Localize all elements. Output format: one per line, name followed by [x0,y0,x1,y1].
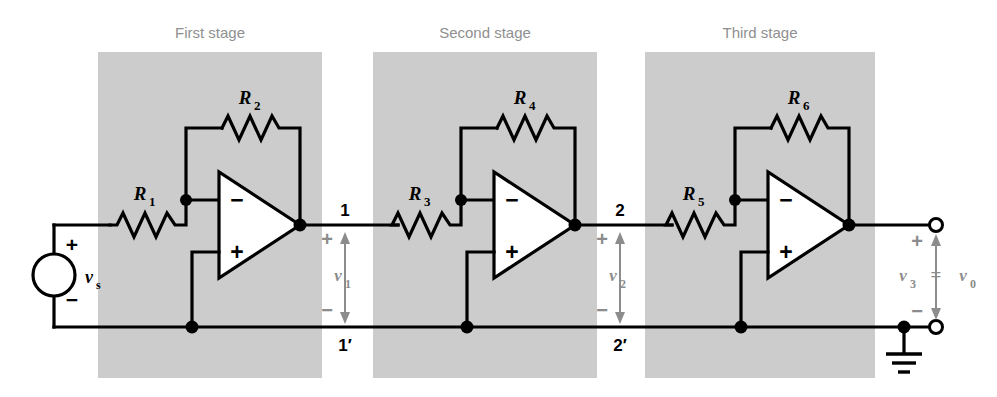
v3-arrow-head-down [931,308,941,320]
junction-dot-output-3 [843,219,856,232]
resistor-r3-subscript: 3 [424,194,431,209]
v3-label: v [899,266,907,285]
resistor-r4-label: R [513,87,527,108]
resistor-r1-label: R [133,183,147,204]
junction-dot-inverting-1 [180,194,192,206]
resistor-r3-label: R [408,183,422,204]
resistor-r4-subscript: 4 [529,98,536,113]
v1-label-subscript: 1 [345,277,351,291]
circuit-svg: First stage Second stage Third stage + −… [0,0,997,397]
resistor-r6-label: R [787,87,801,108]
resistor-r6-subscript: 6 [803,98,810,113]
v3-label-subscript: 3 [910,277,916,291]
v1-plus-sign: + [321,228,333,250]
junction-dot-ground-2 [461,321,474,334]
v1-label: v [334,266,342,285]
source-label: v [85,267,94,287]
resistor-r5-label: R [682,183,696,204]
junction-dot-output-2 [569,219,582,232]
stage-title-third: Third stage [722,24,797,41]
v1-arrow-head-down [340,312,350,324]
v0-label: v [959,266,967,285]
output-terminal-negative [930,321,943,334]
junction-dot-ground-1 [186,321,199,334]
v1-arrow-head-up [340,232,350,244]
v2-label-subscript: 2 [620,277,626,291]
circuit-figure: First stage Second stage Third stage + −… [0,0,997,397]
junction-dot-ground-3 [735,321,748,334]
opamp-3-inverting-sign: − [779,187,792,213]
opamp-2-noninverting-sign: + [505,239,518,265]
v2-minus-sign: − [596,299,608,321]
stage-panel-third [645,52,875,378]
v2-arrow-head-down [615,312,625,324]
stage-title-first: First stage [175,24,245,41]
v3-minus-sign: − [911,300,923,322]
opamp-3-noninverting-sign: + [779,239,792,265]
resistor-r5-subscript: 5 [698,194,705,209]
junction-dot-inverting-3 [729,194,741,206]
resistor-r2-label: R [238,87,252,108]
opamp-1-noninverting-sign: + [230,239,243,265]
v0-label-subscript: 0 [970,277,976,291]
stage-panel-second [373,52,597,378]
resistor-r1-subscript: 1 [149,194,156,209]
stage-panel-first [98,52,322,378]
v1-minus-sign: − [321,299,333,321]
output-terminal-positive [930,219,943,232]
opamp-1-inverting-sign: − [230,187,243,213]
source-plus-sign: + [66,233,78,256]
junction-dot-output-1 [294,219,307,232]
stage-title-second: Second stage [439,24,531,41]
resistor-r2-subscript: 2 [254,98,261,113]
source-minus-sign: − [66,288,78,311]
v2-plus-sign: + [596,228,608,250]
node-label-1: 1 [340,201,349,220]
node-label-2: 2 [615,201,624,220]
output-equals-sign: = [931,264,942,285]
v2-label: v [609,266,617,285]
node-label-1-prime: 1′ [338,336,352,355]
v2-arrow-head-up [615,232,625,244]
v3-plus-sign: + [911,230,923,252]
v3-arrow-head-up [931,234,941,246]
junction-dot-inverting-2 [455,194,467,206]
opamp-2-inverting-sign: − [505,187,518,213]
source-label-subscript: s [96,278,101,292]
node-label-2-prime: 2′ [613,336,627,355]
ground-symbol [886,354,922,372]
